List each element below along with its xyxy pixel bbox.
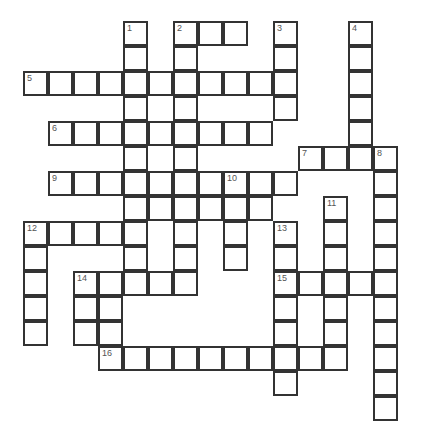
crossword-cell[interactable]: 4 (348, 21, 373, 46)
crossword-cell[interactable] (23, 271, 48, 296)
crossword-cell[interactable] (373, 271, 398, 296)
crossword-cell[interactable]: 1 (123, 21, 148, 46)
crossword-cell[interactable]: 5 (23, 71, 48, 96)
crossword-cell[interactable] (248, 121, 273, 146)
crossword-cell[interactable] (123, 346, 148, 371)
crossword-cell[interactable] (348, 46, 373, 71)
crossword-cell[interactable] (273, 96, 298, 121)
crossword-cell[interactable] (373, 296, 398, 321)
crossword-cell[interactable] (173, 71, 198, 96)
crossword-cell[interactable] (123, 271, 148, 296)
crossword-cell[interactable] (48, 221, 73, 246)
crossword-cell[interactable] (273, 246, 298, 271)
crossword-cell[interactable] (348, 71, 373, 96)
crossword-cell[interactable] (223, 346, 248, 371)
crossword-cell[interactable]: 10 (223, 171, 248, 196)
crossword-cell[interactable]: 15 (273, 271, 298, 296)
crossword-cell[interactable] (273, 371, 298, 396)
crossword-cell[interactable] (148, 346, 173, 371)
crossword-cell[interactable] (123, 221, 148, 246)
crossword-cell[interactable] (323, 346, 348, 371)
crossword-cell[interactable] (198, 71, 223, 96)
crossword-cell[interactable] (373, 321, 398, 346)
crossword-cell[interactable] (73, 171, 98, 196)
crossword-cell[interactable] (273, 321, 298, 346)
crossword-cell[interactable] (98, 71, 123, 96)
crossword-cell[interactable] (98, 296, 123, 321)
crossword-cell[interactable] (373, 371, 398, 396)
crossword-cell[interactable] (173, 271, 198, 296)
crossword-cell[interactable] (348, 96, 373, 121)
crossword-cell[interactable] (123, 121, 148, 146)
crossword-cell[interactable]: 3 (273, 21, 298, 46)
crossword-cell[interactable] (323, 146, 348, 171)
crossword-cell[interactable]: 8 (373, 146, 398, 171)
crossword-cell[interactable] (348, 121, 373, 146)
crossword-cell[interactable] (73, 221, 98, 246)
crossword-cell[interactable] (198, 346, 223, 371)
crossword-cell[interactable] (198, 21, 223, 46)
crossword-cell[interactable] (98, 221, 123, 246)
crossword-cell[interactable]: 2 (173, 21, 198, 46)
crossword-cell[interactable] (198, 121, 223, 146)
crossword-cell[interactable] (123, 46, 148, 71)
crossword-cell[interactable] (298, 271, 323, 296)
crossword-grid[interactable]: 12345678910111213141516 (0, 0, 427, 437)
crossword-cell[interactable] (148, 71, 173, 96)
crossword-cell[interactable]: 7 (298, 146, 323, 171)
crossword-cell[interactable] (223, 121, 248, 146)
crossword-cell[interactable] (73, 321, 98, 346)
crossword-cell[interactable] (373, 221, 398, 246)
crossword-cell[interactable] (198, 171, 223, 196)
crossword-cell[interactable] (173, 221, 198, 246)
crossword-cell[interactable]: 9 (48, 171, 73, 196)
crossword-cell[interactable] (248, 196, 273, 221)
crossword-cell[interactable] (73, 121, 98, 146)
crossword-cell[interactable] (273, 296, 298, 321)
crossword-cell[interactable] (348, 146, 373, 171)
crossword-cell[interactable] (223, 246, 248, 271)
crossword-cell[interactable] (273, 346, 298, 371)
crossword-cell[interactable] (148, 121, 173, 146)
crossword-cell[interactable] (373, 396, 398, 421)
crossword-cell[interactable] (373, 196, 398, 221)
crossword-cell[interactable] (73, 296, 98, 321)
crossword-cell[interactable] (98, 121, 123, 146)
crossword-cell[interactable] (23, 296, 48, 321)
crossword-cell[interactable] (273, 171, 298, 196)
crossword-cell[interactable]: 11 (323, 196, 348, 221)
crossword-cell[interactable] (173, 96, 198, 121)
crossword-cell[interactable] (173, 146, 198, 171)
crossword-cell[interactable] (173, 196, 198, 221)
crossword-cell[interactable]: 13 (273, 221, 298, 246)
crossword-cell[interactable] (73, 71, 98, 96)
crossword-cell[interactable] (323, 296, 348, 321)
crossword-cell[interactable] (148, 171, 173, 196)
crossword-cell[interactable] (173, 46, 198, 71)
crossword-cell[interactable] (298, 346, 323, 371)
crossword-cell[interactable] (323, 221, 348, 246)
crossword-cell[interactable] (173, 171, 198, 196)
crossword-cell[interactable] (98, 321, 123, 346)
crossword-cell[interactable] (323, 246, 348, 271)
crossword-cell[interactable] (98, 171, 123, 196)
crossword-cell[interactable] (123, 246, 148, 271)
crossword-cell[interactable] (373, 246, 398, 271)
crossword-cell[interactable] (373, 171, 398, 196)
crossword-cell[interactable]: 14 (73, 271, 98, 296)
crossword-cell[interactable] (173, 121, 198, 146)
crossword-cell[interactable] (173, 346, 198, 371)
crossword-cell[interactable] (323, 321, 348, 346)
crossword-cell[interactable] (123, 71, 148, 96)
crossword-cell[interactable]: 12 (23, 221, 48, 246)
crossword-cell[interactable] (123, 146, 148, 171)
crossword-cell[interactable] (23, 321, 48, 346)
crossword-cell[interactable] (373, 346, 398, 371)
crossword-cell[interactable] (123, 196, 148, 221)
crossword-cell[interactable] (248, 71, 273, 96)
crossword-cell[interactable] (223, 196, 248, 221)
crossword-cell[interactable] (198, 196, 223, 221)
crossword-cell[interactable]: 16 (98, 346, 123, 371)
crossword-cell[interactable] (248, 171, 273, 196)
crossword-cell[interactable] (223, 21, 248, 46)
